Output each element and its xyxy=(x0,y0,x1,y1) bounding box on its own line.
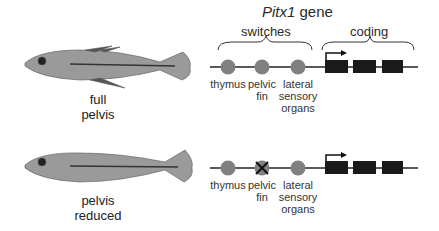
caption-full-pelvis: fullpelvis xyxy=(58,92,138,122)
tss-arrow-1 xyxy=(326,53,342,60)
label-pelvic-fin-2: pelvicfin xyxy=(244,179,280,203)
switches-label: switches xyxy=(241,24,291,39)
exon-1-1 xyxy=(325,60,348,73)
switch-lateral-1 xyxy=(291,60,306,75)
label-thymus-1: thymus xyxy=(208,78,248,90)
fish-full-pelvis xyxy=(25,46,190,88)
switch-thymus-2 xyxy=(221,161,236,176)
exon-1-3 xyxy=(382,60,403,73)
fish-pelvis-reduced xyxy=(25,150,192,182)
label-lateral-1: lateralsensoryorgans xyxy=(278,78,318,114)
exon-1-2 xyxy=(353,60,376,73)
caption-pelvis-reduced: pelvisreduced xyxy=(58,193,138,223)
exon-2-2 xyxy=(353,161,376,174)
switch-pelvic-fin-1 xyxy=(255,60,270,75)
label-lateral-2: lateralsensoryorgans xyxy=(278,179,318,215)
tss-arrow-2 xyxy=(326,155,342,161)
switch-thymus-1 xyxy=(221,60,236,75)
exon-2-3 xyxy=(382,161,403,174)
label-thymus-2: thymus xyxy=(208,179,248,191)
switch-lateral-2 xyxy=(291,161,306,176)
gene-title: Pitx1 gene xyxy=(262,3,333,20)
coding-label: coding xyxy=(350,24,388,39)
exon-2-1 xyxy=(325,161,348,174)
label-pelvic-fin-1: pelvicfin xyxy=(244,78,280,102)
